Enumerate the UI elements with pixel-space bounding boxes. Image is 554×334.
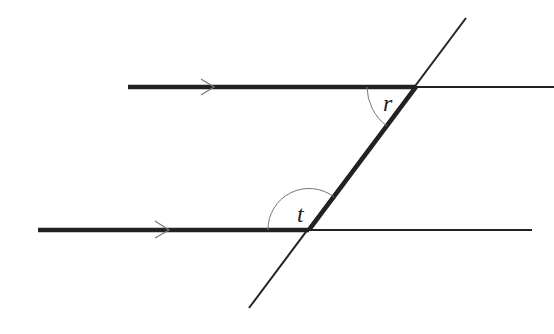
diagram-canvas: r t xyxy=(0,0,554,334)
angle-t-label: t xyxy=(297,201,305,227)
parallel-lines-diagram: r t xyxy=(0,0,554,334)
angle-r-label: r xyxy=(383,90,393,116)
transversal-thick-segment xyxy=(309,87,416,230)
